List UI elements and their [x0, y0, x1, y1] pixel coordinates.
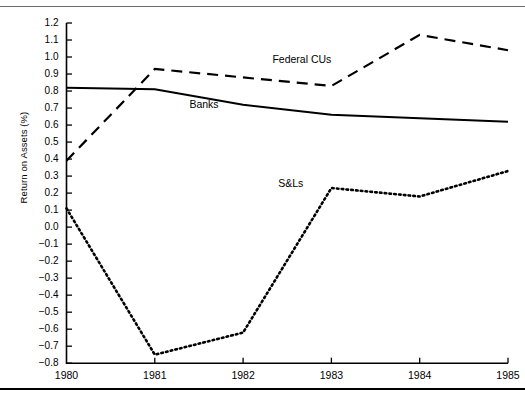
axis-lines: [66, 23, 508, 364]
y-tick-label: 1.1: [19, 35, 59, 45]
y-tick-label: −0.3: [19, 273, 59, 283]
series-label-federal-cus: Federal CUs: [272, 54, 331, 65]
y-tick-label: 0.8: [19, 86, 59, 96]
y-tick-label: 1.2: [19, 18, 59, 28]
y-tick-label: 0.1: [19, 205, 59, 215]
y-tick-label: 0.4: [19, 154, 59, 164]
y-tick-label: −0.6: [19, 324, 59, 334]
y-tick-label: 1.0: [19, 52, 59, 62]
x-tick-label: 1981: [125, 370, 185, 381]
y-tick-label: −0.7: [19, 341, 59, 351]
x-tick-label: 1982: [213, 370, 273, 381]
x-tick-label: 1980: [37, 370, 97, 381]
y-axis-ticks: [67, 23, 73, 363]
y-tick-label: 0.9: [19, 69, 59, 79]
y-tick-label: −0.2: [19, 256, 59, 266]
series-label-banks: Banks: [189, 99, 218, 110]
y-tick-label: −0.1: [19, 239, 59, 249]
y-tick-label: 0.5: [19, 137, 59, 147]
y-tick-label: −0.4: [19, 290, 59, 300]
y-tick-label: −0.5: [19, 307, 59, 317]
x-tick-label: 1983: [301, 370, 361, 381]
y-tick-label: −0.8: [19, 358, 59, 368]
plot-area: [0, 0, 525, 403]
x-tick-label: 1985: [478, 370, 525, 381]
series-label-s-ls: S&Ls: [278, 178, 303, 189]
y-tick-label: 0.6: [19, 120, 59, 130]
x-tick-label: 1984: [390, 370, 450, 381]
y-tick-label: 0.7: [19, 103, 59, 113]
x-axis-ticks: [155, 358, 508, 364]
chart-figure: Return on Assets (%) 1.21.11.00.90.80.70…: [0, 0, 525, 403]
y-tick-label: 0.2: [19, 188, 59, 198]
y-tick-label: 0.3: [19, 171, 59, 181]
y-tick-label: 0.0: [19, 222, 59, 232]
series-line-s-ls: [67, 171, 509, 355]
series-lines: [67, 35, 509, 355]
